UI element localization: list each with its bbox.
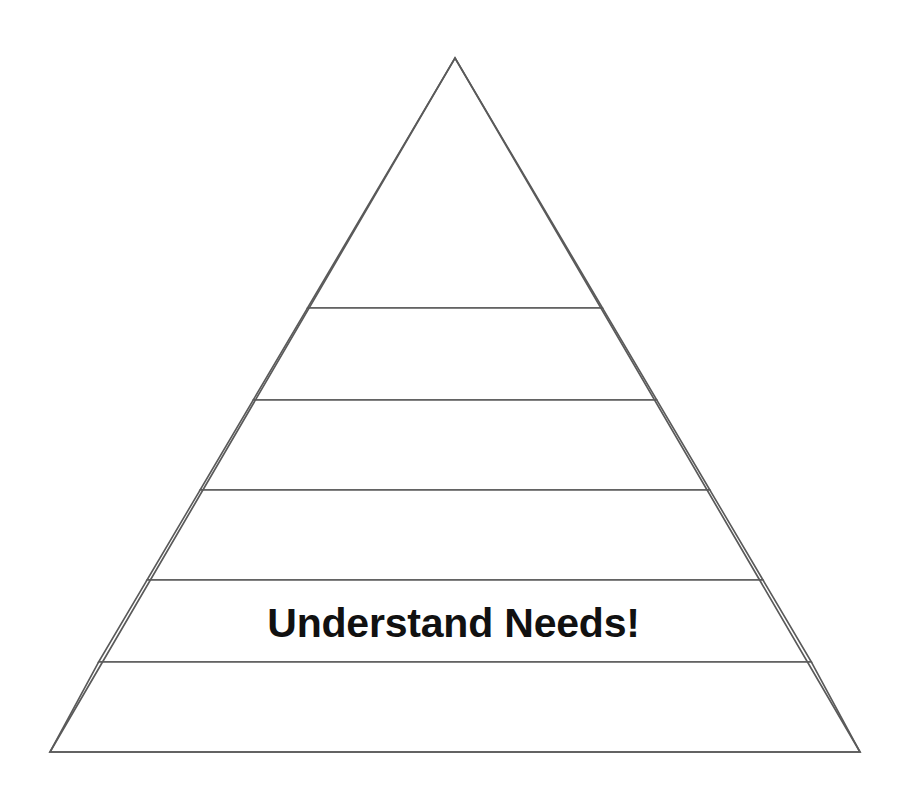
diagram-canvas: Understand Needs! (0, 0, 907, 790)
pyramid-level-6[interactable] (50, 662, 860, 752)
pyramid-level-3[interactable] (200, 400, 710, 490)
pyramid-diagram (0, 0, 907, 790)
pyramid-level-5-label: Understand Needs! (0, 601, 907, 645)
pyramid-level-1[interactable] (308, 58, 603, 308)
page-caption-clipped (8, 771, 907, 790)
pyramid-level-2[interactable] (253, 308, 657, 400)
pyramid-level-4[interactable] (147, 490, 763, 580)
